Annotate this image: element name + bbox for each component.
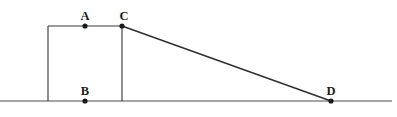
point-dot-c	[119, 23, 124, 28]
point-label-a: A	[80, 10, 89, 23]
point-label-c: C	[119, 10, 128, 23]
geometry-figure: A B C D	[0, 0, 397, 117]
figure-canvas	[0, 0, 397, 117]
point-label-d: D	[326, 85, 335, 98]
segment-diagonal-cd	[122, 26, 331, 101]
point-dot-b	[82, 98, 87, 103]
points-group	[82, 23, 333, 103]
point-dot-a	[82, 23, 87, 28]
point-label-b: B	[81, 85, 90, 98]
point-dot-d	[328, 98, 333, 103]
